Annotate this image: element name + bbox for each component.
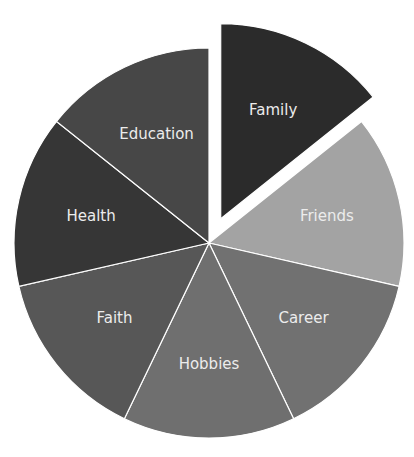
slice-label-friends: Friends [300,207,354,225]
slice-label-hobbies: Hobbies [179,355,240,373]
pie-chart: FamilyFriendsCareerHobbiesFaithHealthEdu… [0,0,414,457]
slice-label-health: Health [66,207,115,225]
slice-label-family: Family [249,101,297,119]
slice-label-education: Education [119,125,194,143]
slice-label-faith: Faith [96,309,132,327]
slice-label-career: Career [278,309,329,327]
pie-slices [14,24,404,438]
